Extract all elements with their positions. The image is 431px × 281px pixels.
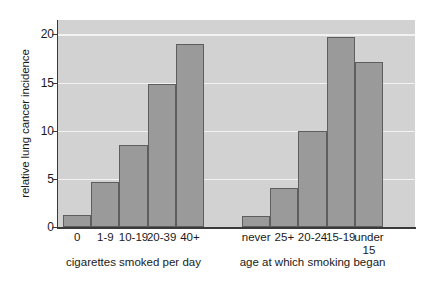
plot-area	[58, 20, 415, 227]
y-axis-tick-mark	[52, 34, 58, 35]
x-axis-tick-label: 25+	[275, 231, 295, 244]
bar	[119, 145, 147, 227]
x-axis-tick-label: 20-24	[298, 231, 327, 244]
x-axis-group-title: age at which smoking began	[240, 256, 386, 268]
x-axis-tick-label: 1-9	[97, 231, 114, 244]
bar	[298, 131, 326, 227]
bar	[91, 182, 119, 227]
x-axis-tick-label: 40+	[180, 231, 200, 244]
x-axis-tick-label: 10-19	[119, 231, 148, 244]
y-axis-tick-mark	[52, 227, 58, 228]
gridline	[58, 34, 415, 36]
bar	[242, 216, 270, 227]
x-axis-tick-label: under 15	[354, 231, 383, 257]
bar	[270, 188, 298, 227]
y-axis-tick-mark	[52, 83, 58, 84]
y-axis-tick-mark	[52, 131, 58, 132]
bar	[176, 44, 204, 227]
bar	[327, 37, 355, 227]
x-axis-tick-label: never	[242, 231, 271, 244]
x-axis-tick-label: 0	[74, 231, 80, 244]
bar	[63, 215, 91, 227]
bar	[148, 84, 176, 227]
x-axis-tick-label: 15-19	[326, 231, 355, 244]
y-axis-tick-labels: 05101520	[26, 20, 54, 227]
bar	[355, 62, 383, 227]
y-axis-tick-mark	[52, 179, 58, 180]
x-axis-line	[57, 227, 416, 229]
x-axis-group-title: cigarettes smoked per day	[66, 256, 201, 268]
x-axis-tick-label: 20-39	[147, 231, 176, 244]
chart-figure: relative lung cancer incidence 05101520 …	[0, 0, 431, 281]
